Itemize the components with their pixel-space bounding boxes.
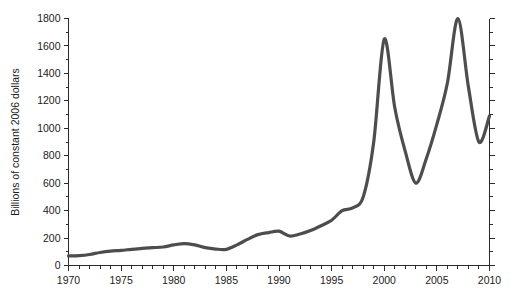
x-tick-label: 1985 xyxy=(215,274,239,286)
y-tick-label: 600 xyxy=(43,177,61,189)
y-axis-title: Billions of constant 2006 dollars xyxy=(9,68,21,216)
x-tick-label: 2005 xyxy=(425,274,449,286)
y-tick-label: 1600 xyxy=(37,40,61,52)
x-axis: 197019751980198519901995200020052010 xyxy=(57,266,502,286)
x-tick-label: 1980 xyxy=(162,274,186,286)
y-tick-label: 1000 xyxy=(37,122,61,134)
y-tick-label: 1200 xyxy=(37,94,61,106)
y-tick-label: 400 xyxy=(43,204,61,216)
right-axis xyxy=(490,19,495,266)
x-tick-label: 1970 xyxy=(57,274,81,286)
data-series xyxy=(69,18,490,255)
x-tick-label: 1990 xyxy=(267,274,291,286)
series-line xyxy=(69,18,490,255)
y-tick-label: 800 xyxy=(43,149,61,161)
x-tick-label: 1975 xyxy=(109,274,133,286)
y-tick-label: 1400 xyxy=(37,67,61,79)
line-chart: 020040060080010001200140016001800 197019… xyxy=(0,0,511,299)
chart-container: 020040060080010001200140016001800 197019… xyxy=(0,0,511,299)
x-tick-label: 2010 xyxy=(478,274,502,286)
y-axis-title-text: Billions of constant 2006 dollars xyxy=(9,68,21,216)
y-tick-label: 200 xyxy=(43,232,61,244)
y-axis: 020040060080010001200140016001800 xyxy=(37,12,68,271)
y-tick-label: 1800 xyxy=(37,12,61,24)
x-tick-label: 1995 xyxy=(320,274,344,286)
x-tick-label: 2000 xyxy=(373,274,397,286)
y-tick-label: 0 xyxy=(55,259,61,271)
